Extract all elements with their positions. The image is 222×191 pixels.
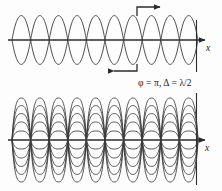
top-panel — [8, 7, 205, 71]
wave-right-direction-marker — [137, 7, 160, 16]
bottom-axis-label: x — [205, 143, 209, 153]
physics-figure: φ = π, Δ = λ/2 x x — [0, 0, 222, 191]
bottom-panel — [8, 98, 205, 182]
phase-annotation: φ = π, Δ = λ/2 — [138, 76, 222, 91]
wave-interference-diagram — [0, 0, 222, 191]
top-axis-label: x — [206, 43, 210, 53]
